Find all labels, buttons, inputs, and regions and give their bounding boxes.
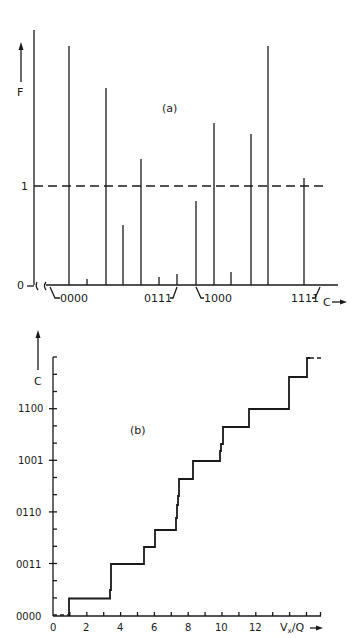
figure: F 1 0 0000 0111 bbox=[0, 0, 354, 638]
panel-b-x-tick-10: 10 bbox=[215, 622, 228, 633]
panel-a-group-label-0000: 0000 bbox=[60, 292, 88, 305]
panel-b-y-tick-1100: 1100 bbox=[18, 403, 43, 414]
panel-a-bars bbox=[69, 46, 304, 285]
panel-b-x-tick-0: 0 bbox=[50, 622, 56, 633]
panel-a-title: (a) bbox=[162, 102, 177, 115]
panel-b-y-tick-0000: 0000 bbox=[16, 611, 41, 622]
arrow-up-icon bbox=[19, 42, 24, 50]
panel-a-group-label-1000: 1000 bbox=[204, 292, 232, 305]
bracket-0000 bbox=[50, 287, 60, 298]
panel-a-y-tick-0: 0 bbox=[17, 279, 24, 292]
arrow-right-icon bbox=[316, 626, 323, 631]
panel-b-x-tick-6: 6 bbox=[151, 622, 157, 633]
panel-b-y-tick-0110: 0110 bbox=[16, 507, 41, 518]
bracket-1000 bbox=[196, 287, 204, 298]
panel-a-chart: F 1 0 0000 0111 bbox=[17, 30, 347, 309]
panel-a-group-label-0111: 0111 bbox=[144, 292, 172, 305]
panel-b-x-tick-2: 2 bbox=[83, 622, 89, 633]
axis-break-icon bbox=[45, 282, 47, 290]
panel-b-chart: C 1100 1001 0110 0011 0000 0 bbox=[16, 330, 324, 635]
panel-b-x-label: Vx/Q bbox=[280, 621, 304, 635]
panel-a-y-tick-1: 1 bbox=[21, 180, 28, 193]
panel-b-y-tick-0011: 0011 bbox=[16, 559, 41, 570]
panel-b-x-tick-8: 8 bbox=[185, 622, 191, 633]
panel-b-staircase bbox=[69, 358, 310, 616]
arrow-up-icon bbox=[36, 330, 41, 338]
panel-a-y-label: F bbox=[17, 86, 23, 99]
axis-break-icon bbox=[36, 282, 38, 290]
panel-b-y-tick-1001: 1001 bbox=[18, 455, 43, 466]
panel-b-x-tick-12: 12 bbox=[249, 622, 262, 633]
panel-b-y-label: C bbox=[34, 375, 42, 388]
panel-a-x-label: C bbox=[323, 296, 331, 309]
panel-b-title: (b) bbox=[130, 424, 146, 437]
panel-b-x-tick-4: 4 bbox=[117, 622, 123, 633]
arrow-right-icon bbox=[340, 300, 347, 305]
